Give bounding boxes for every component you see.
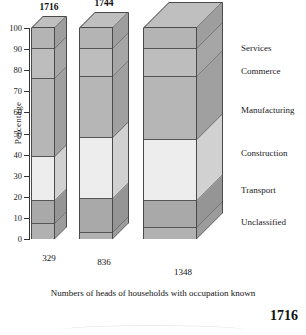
y-tick-0: [24, 239, 30, 240]
y-tick-70: [24, 91, 30, 92]
bar-front-face: [31, 28, 55, 239]
bar-segment-construction[interactable]: [80, 138, 112, 199]
bar-1716[interactable]: [31, 28, 55, 239]
y-tick-50: [24, 134, 30, 135]
bar-segment-transport[interactable]: [32, 201, 54, 224]
category-label-services: Services: [241, 43, 272, 53]
bar-segment-manufacturing[interactable]: [32, 79, 54, 157]
bar-segment-services[interactable]: [32, 28, 54, 49]
bar-count-label-1744: 836: [69, 257, 139, 267]
bar-side-face: [55, 16, 67, 239]
bar-segment-commerce[interactable]: [32, 49, 54, 79]
bar-segment-services[interactable]: [144, 28, 196, 49]
y-tick-40: [24, 155, 30, 156]
bar-side-face: [113, 12, 129, 239]
y-tick-60: [24, 112, 30, 113]
bar-segment-unclassified[interactable]: [32, 224, 54, 239]
bar-segment-manufacturing[interactable]: [80, 77, 112, 138]
bar-1795[interactable]: [143, 28, 197, 239]
bar-segment-manufacturing[interactable]: [144, 77, 196, 140]
category-label-transport: Transport: [241, 185, 276, 195]
category-label-commerce: Commerce: [241, 66, 281, 76]
bar-segment-transport[interactable]: [80, 199, 112, 233]
category-label-manufacturing: Manufacturing: [241, 105, 294, 115]
bar-segment-unclassified[interactable]: [144, 228, 196, 239]
bar-segment-commerce[interactable]: [144, 49, 196, 76]
bar-segment-side-manufacturing: [55, 68, 66, 157]
y-tick-10: [24, 218, 30, 219]
bar-segment-services[interactable]: [80, 28, 112, 49]
chart-caption: Numbers of heads of households with occu…: [0, 288, 306, 298]
bar-segment-construction[interactable]: [32, 157, 54, 201]
y-tick-20: [24, 197, 30, 198]
bar-side-face: [197, 2, 223, 239]
bar-segment-unclassified[interactable]: [80, 233, 112, 239]
bar-segment-construction[interactable]: [144, 140, 196, 201]
bar-segment-commerce[interactable]: [80, 49, 112, 76]
bar-1744[interactable]: [79, 28, 113, 239]
page-decoration: [60, 325, 246, 335]
y-tick-100: [24, 28, 30, 29]
y-tick-30: [24, 176, 30, 177]
bar-count-label-1795: 1348: [133, 267, 233, 277]
bar-front-face: [79, 28, 113, 239]
category-label-unclassified: Unclassified: [241, 217, 286, 227]
y-tick-90: [24, 49, 30, 50]
bar-front-face: [143, 28, 197, 239]
bar-segment-transport[interactable]: [144, 201, 196, 228]
bar-year-label-1744: 1744: [69, 0, 139, 8]
y-tick-80: [24, 70, 30, 71]
page-number: 1716: [270, 308, 298, 324]
category-label-construction: Construction: [241, 148, 288, 158]
